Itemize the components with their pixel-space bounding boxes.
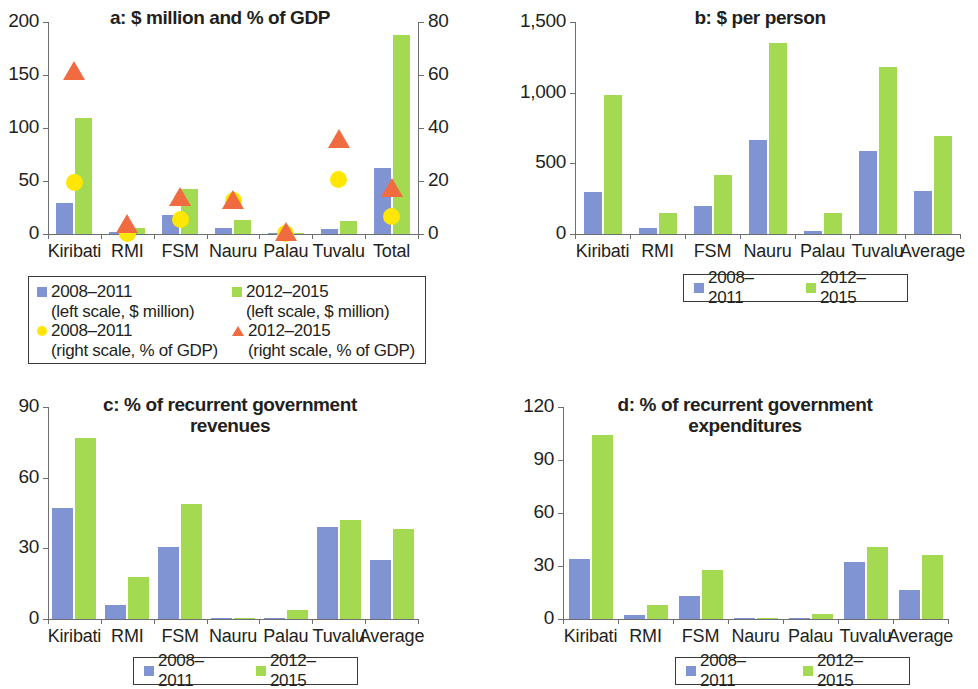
chart-b-plot-area — [575, 22, 960, 234]
bar-nauru-series2 — [769, 43, 787, 234]
legend-item: 2012–2015(right scale, % of GDP) — [232, 321, 417, 360]
x-axis-tick — [48, 619, 49, 624]
legend-item: 2008–2011 — [144, 651, 234, 689]
chart-b-legend: 2008–2011 2012–2015 — [683, 274, 908, 302]
x-axis-tick — [365, 234, 366, 239]
bar-tuvalu-series1 — [859, 151, 877, 234]
bar-nauru-series1 — [211, 618, 232, 620]
bar-rmi-series2 — [647, 605, 668, 619]
x-axis-tick — [685, 234, 686, 239]
bar-fsm-series2 — [181, 504, 202, 619]
y-axis-line — [575, 22, 576, 234]
square-green-icon — [806, 283, 816, 293]
y-axis-tick — [570, 22, 576, 23]
chart-panel-b: b: $ per person 05001,0001,500 KiribatiR… — [500, 0, 978, 375]
secondary-y-axis-tick — [418, 128, 424, 129]
x-axis-tick — [101, 234, 102, 239]
x-axis-tick — [948, 619, 949, 624]
legend-label: 2012–2015 — [820, 268, 897, 307]
bar-rmi-series2 — [128, 577, 149, 619]
x-axis-tick — [259, 234, 260, 239]
marker-triangle-rmi — [116, 214, 138, 233]
x-axis-tick — [418, 619, 419, 624]
x-axis-tick — [154, 619, 155, 624]
bar-kiribati-series2 — [592, 435, 613, 619]
bar-average-series2 — [922, 555, 943, 619]
x-axis-tick — [795, 234, 796, 239]
legend-item: 2008–2011(left scale, $ million) — [37, 282, 222, 321]
bar-palau-series1 — [789, 618, 810, 620]
y-axis-tick — [558, 566, 564, 567]
legend-item: 2008–2011 — [686, 651, 781, 689]
y-axis-tick — [43, 181, 49, 182]
square-blue-icon — [144, 666, 154, 676]
bar-nauru-series1 — [734, 618, 755, 620]
bar-average-series1 — [899, 590, 920, 619]
marker-triangle-kiribati — [63, 61, 85, 80]
x-axis-tick — [154, 234, 155, 239]
bar-nauru-series2 — [757, 618, 778, 620]
y-axis-tick — [570, 93, 576, 94]
secondary-y-axis-tick — [418, 22, 424, 23]
bar-nauru-series1 — [215, 228, 232, 234]
y-axis-tick-label: 500 — [510, 151, 566, 173]
x-axis-tick — [365, 619, 366, 624]
bar-fsm-series1 — [158, 547, 179, 619]
x-axis-label-average: Average — [883, 241, 978, 262]
y-axis-tick — [43, 478, 49, 479]
x-axis-line — [48, 619, 418, 620]
bar-nauru-series2 — [234, 618, 255, 620]
x-axis-tick — [960, 234, 961, 239]
bar-rmi-series2 — [659, 213, 677, 234]
x-axis-tick — [259, 619, 260, 624]
x-axis-tick — [893, 619, 894, 624]
y-axis-tick-label: 30 — [0, 536, 39, 558]
legend-item: 2012–2015(left scale, $ million) — [232, 282, 417, 321]
y-axis-tick-label: 1,500 — [510, 10, 566, 32]
bar-nauru-series1 — [749, 140, 767, 234]
x-axis-tick — [905, 234, 906, 239]
bar-tuvalu-series1 — [317, 527, 338, 619]
y-axis-tick — [43, 22, 49, 23]
x-axis-label-average: Average — [871, 626, 971, 647]
y-axis-tick-label: 150 — [0, 63, 39, 85]
bar-tuvalu-series2 — [340, 221, 357, 234]
square-blue-icon — [686, 666, 696, 676]
x-axis-tick — [101, 619, 102, 624]
bar-kiribati-series1 — [52, 508, 73, 619]
x-axis-tick — [630, 234, 631, 239]
legend-label: 2008–2011(left scale, $ million) — [51, 282, 194, 321]
square-green-icon — [232, 287, 242, 297]
y-axis-tick — [43, 75, 49, 76]
y-axis-tick-label: 30 — [498, 554, 554, 576]
triangle-orange-icon — [232, 326, 244, 336]
x-axis-label-average: Average — [342, 626, 442, 647]
bar-tuvalu-series2 — [340, 520, 361, 619]
y-axis-tick-label: 1,000 — [510, 81, 566, 103]
y-axis-tick-label: 50 — [0, 169, 39, 191]
bar-palau-series1 — [264, 618, 285, 620]
x-axis-tick — [850, 234, 851, 239]
y-axis-tick — [43, 407, 49, 408]
chart-d-legend: 2008–2011 2012–2015 — [675, 657, 910, 685]
x-axis-tick — [207, 234, 208, 239]
y-axis-tick — [558, 460, 564, 461]
chart-panel-a: a: $ million and % of GDP 05010015020002… — [0, 0, 470, 375]
y-axis-tick — [43, 128, 49, 129]
legend-label: 2012–2015 — [270, 651, 347, 689]
legend-item: 2012–2015 — [806, 268, 897, 307]
y-axis-tick — [558, 513, 564, 514]
secondary-y-axis-tick-label: 20 — [428, 169, 474, 191]
marker-triangle-nauru — [222, 190, 244, 209]
y-axis-tick-label: 120 — [498, 395, 554, 417]
legend-label: 2012–2015(right scale, % of GDP) — [248, 321, 415, 360]
secondary-y-axis-tick-label: 40 — [428, 116, 474, 138]
legend-item: 2008–2011(right scale, % of GDP) — [37, 321, 222, 360]
legend-label: 2008–2011(right scale, % of GDP) — [51, 321, 218, 360]
bar-fsm-series1 — [694, 206, 712, 234]
chart-panel-d: d: % of recurrent government expenditure… — [500, 385, 978, 689]
chart-a-legend: 2008–2011(left scale, $ million)2012–201… — [28, 276, 426, 364]
bar-average-series2 — [934, 136, 952, 234]
bar-palau-series2 — [824, 213, 842, 234]
marker-triangle-total — [381, 178, 403, 197]
